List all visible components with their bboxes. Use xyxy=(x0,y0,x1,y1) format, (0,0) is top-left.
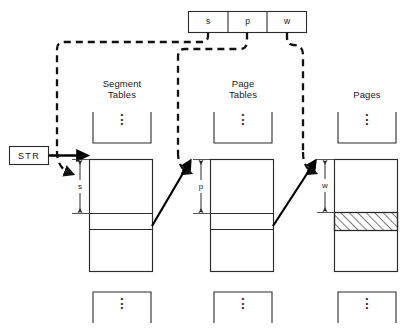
segment-entry-to-page-table-link xyxy=(152,163,189,226)
segment-tables-title-line2: Tables xyxy=(92,90,152,101)
segment-tables-lower-dots: ••• xyxy=(92,297,152,311)
pages-upper-dots: ••• xyxy=(337,113,397,127)
diagram-canvas xyxy=(0,0,411,332)
page-entry-to-page-frame-link xyxy=(273,163,314,226)
pages-title-line1: Pages xyxy=(337,90,397,101)
str-label: STR xyxy=(9,151,49,161)
page-table-outline xyxy=(211,160,274,272)
dimension-label-w: w xyxy=(315,181,335,190)
page-tables-title-line2: Tables xyxy=(213,90,273,101)
address-translation-diagram: s p w STR Segment Tables Page Tables Pag… xyxy=(0,0,411,332)
segment-table-outline xyxy=(90,160,153,272)
page-frame-box[interactable] xyxy=(335,160,398,272)
dimension-label-s: s xyxy=(70,182,90,191)
dimension-label-p: p xyxy=(191,182,211,191)
target-word-hatched-band xyxy=(335,213,398,231)
register-cell-w[interactable]: w xyxy=(267,17,307,27)
register-cell-s[interactable]: s xyxy=(188,17,228,27)
page-tables-upper-dots: ••• xyxy=(213,113,273,127)
segment-tables-upper-dots: ••• xyxy=(92,113,152,127)
register-cell-p[interactable]: p xyxy=(228,17,267,27)
segment-table-box[interactable] xyxy=(90,160,153,272)
page-table-box[interactable] xyxy=(211,160,274,272)
page-tables-lower-dots: ••• xyxy=(213,297,273,311)
dashed-link-w xyxy=(287,33,303,153)
pages-lower-dots: ••• xyxy=(337,297,397,311)
dashed-link-w-hook xyxy=(303,152,313,172)
